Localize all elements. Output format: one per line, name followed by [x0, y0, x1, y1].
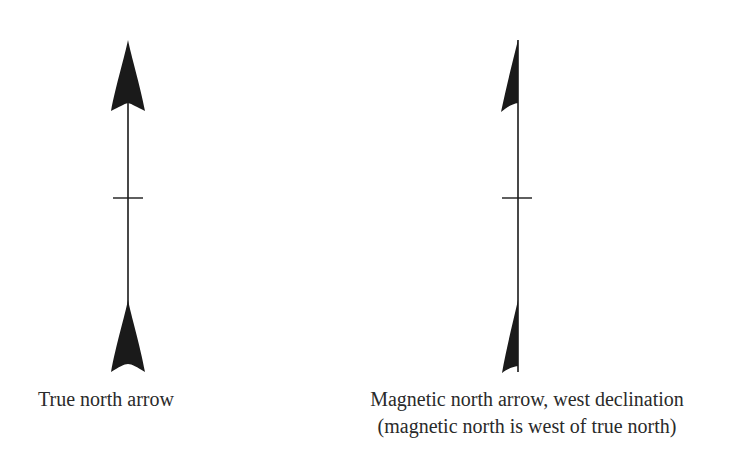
true-north-arrowhead-icon — [111, 40, 145, 111]
magnetic-north-arrow — [501, 40, 532, 373]
magnetic-north-caption-line-1: Magnetic north arrow, west declination — [305, 386, 748, 413]
true-north-arrow — [111, 40, 145, 372]
magnetic-north-caption-line-2: (magnetic north is west of true north) — [305, 413, 748, 440]
true-north-tail-icon — [111, 300, 145, 372]
magnetic-north-half-tail-icon — [502, 300, 518, 373]
magnetic-north-caption: Magnetic north arrow, west declination (… — [305, 386, 748, 440]
true-north-caption: True north arrow — [38, 386, 174, 413]
magnetic-north-half-arrowhead-icon — [501, 40, 518, 112]
